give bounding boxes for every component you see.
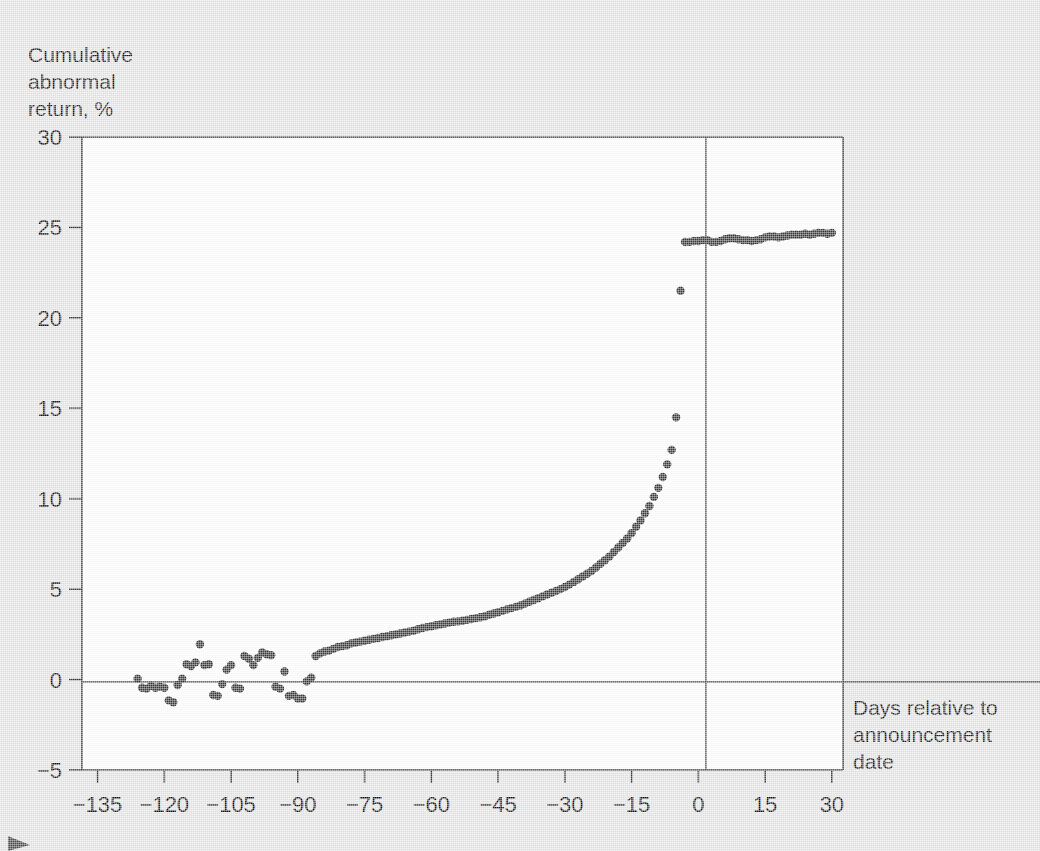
y-tick-label: −5 — [37, 758, 62, 783]
x-axis-label: Days relative to announcement date — [853, 696, 998, 773]
y-tick-label: 15 — [38, 396, 62, 421]
data-point — [169, 698, 177, 706]
data-point — [160, 684, 168, 692]
y-tick-label: 20 — [38, 306, 62, 331]
x-axis-label-line3: date — [853, 750, 894, 773]
x-tick-label: 30 — [820, 792, 844, 817]
data-point — [654, 484, 662, 492]
data-point — [276, 684, 284, 692]
data-point — [672, 413, 680, 421]
data-point — [650, 493, 658, 501]
x-axis-label-line1: Days relative to — [853, 696, 998, 719]
figure-container: −5051015202530 −135−120−105−90−75−60−45−… — [0, 0, 1040, 851]
x-axis-label-line2: announcement — [853, 723, 992, 746]
x-tick-label: −120 — [140, 792, 190, 817]
x-axis-ticks: −135−120−105−90−75−60−45−30−1501530 — [73, 770, 844, 817]
x-tick-label: −30 — [546, 792, 583, 817]
data-point — [641, 509, 649, 517]
x-tick-label: −75 — [346, 792, 383, 817]
data-point — [227, 661, 235, 669]
y-axis-label: Cumulative abnormal return, % — [28, 43, 133, 120]
data-point — [236, 684, 244, 692]
data-point — [214, 692, 222, 700]
data-point — [191, 658, 199, 666]
data-point — [298, 694, 306, 702]
y-tick-label: 0 — [50, 668, 62, 693]
x-tick-label: −90 — [279, 792, 316, 817]
plot-area-background — [82, 137, 843, 770]
cumulative-abnormal-return-chart: −5051015202530 −135−120−105−90−75−60−45−… — [0, 0, 1040, 851]
x-tick-label: −135 — [73, 792, 123, 817]
page-corner-mark — [8, 836, 30, 851]
data-point — [667, 446, 675, 454]
data-point — [249, 661, 257, 669]
data-point — [663, 460, 671, 468]
y-tick-label: 25 — [38, 215, 62, 240]
y-axis-ticks: −5051015202530 — [37, 125, 82, 783]
data-point — [645, 502, 653, 510]
y-tick-label: 30 — [38, 125, 62, 150]
x-tick-label: −60 — [413, 792, 450, 817]
x-tick-label: −45 — [479, 792, 516, 817]
y-tick-label: 5 — [50, 577, 62, 602]
x-tick-label: −15 — [613, 792, 650, 817]
data-point — [307, 674, 315, 682]
y-axis-label-line3: return, % — [28, 97, 113, 120]
data-point — [218, 680, 226, 688]
x-tick-label: 15 — [753, 792, 777, 817]
y-axis-label-line1: Cumulative — [28, 43, 133, 66]
data-point — [659, 473, 667, 481]
x-tick-label: 0 — [692, 792, 704, 817]
y-tick-label: 10 — [38, 487, 62, 512]
data-point — [828, 229, 836, 237]
data-point — [178, 674, 186, 682]
data-point — [636, 516, 644, 524]
data-point — [196, 640, 204, 648]
data-point — [267, 651, 275, 659]
data-point — [133, 674, 141, 682]
data-point — [280, 667, 288, 675]
y-axis-label-line2: abnormal — [28, 70, 116, 93]
data-point — [205, 660, 213, 668]
data-point — [676, 287, 684, 295]
x-tick-label: −105 — [206, 792, 256, 817]
